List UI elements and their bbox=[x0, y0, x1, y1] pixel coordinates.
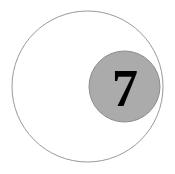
circle-diagram: 7 bbox=[0, 0, 175, 174]
figure-canvas: 7 bbox=[0, 0, 175, 174]
digit-label: 7 bbox=[112, 60, 138, 117]
